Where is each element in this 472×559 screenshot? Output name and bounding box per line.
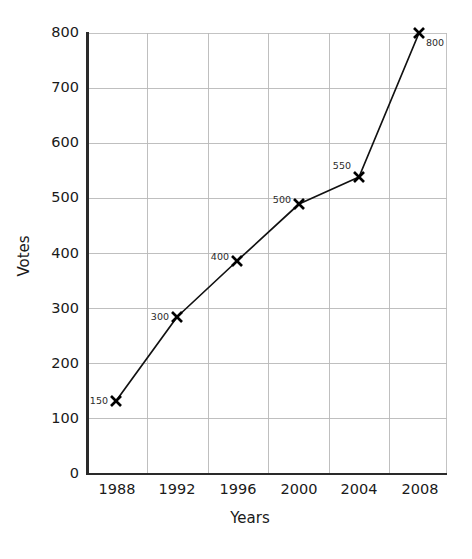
y-tick-label-200: 200 (51, 355, 79, 371)
x-axis-title: Years (229, 509, 270, 527)
x-tick-label-1988: 1988 (99, 481, 136, 497)
y-tick-label-700: 700 (51, 79, 79, 95)
y-tick-label-600: 600 (51, 134, 79, 150)
data-label-1992: 300 (151, 311, 169, 322)
data-label-2000: 500 (273, 194, 291, 205)
x-tick-labels: 1988 1992 1996 2000 2004 2008 (99, 481, 439, 497)
y-tick-labels: 800 700 600 500 400 300 200 100 0 (51, 24, 79, 481)
x-tick-label-2008: 2008 (402, 481, 439, 497)
data-label-2008: 800 (426, 37, 444, 48)
data-label-1996: 400 (211, 251, 229, 262)
x-tick-label-2000: 2000 (281, 481, 318, 497)
y-tick-label-100: 100 (51, 410, 79, 426)
data-label-1988: 150 (90, 395, 108, 406)
y-tick-label-300: 300 (51, 300, 79, 316)
y-tick-label-400: 400 (51, 245, 79, 261)
x-tick-label-2004: 2004 (341, 481, 378, 497)
y-tick-label-500: 500 (51, 189, 79, 205)
y-axis-title: Votes (15, 235, 33, 276)
y-tick-label-800: 800 (51, 24, 79, 40)
line-chart: 800 700 600 500 400 300 200 100 0 1988 1… (0, 0, 472, 559)
x-tick-label-1996: 1996 (220, 481, 257, 497)
y-tick-label-0: 0 (70, 465, 79, 481)
chart-canvas: 800 700 600 500 400 300 200 100 0 1988 1… (0, 0, 472, 559)
data-label-2004: 550 (333, 160, 351, 171)
x-tick-label-1992: 1992 (159, 481, 196, 497)
